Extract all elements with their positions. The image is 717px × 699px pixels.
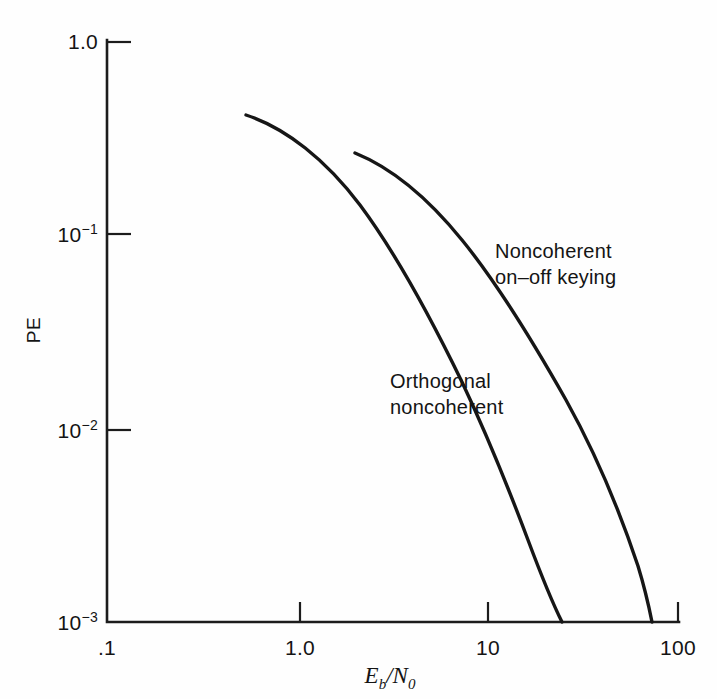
y-tick-label-1: 1.0 bbox=[68, 30, 98, 53]
figure-container: 1.0 10−1 10−2 10−3 .1 1.0 10 100 bbox=[0, 0, 717, 699]
x-tick-label-100: 100 bbox=[660, 636, 696, 659]
curve-orthogonal-noncoherent bbox=[246, 115, 562, 622]
y-axis-title: PE bbox=[23, 317, 44, 343]
y-tick-label-1e-3: 10−3 bbox=[57, 609, 98, 634]
x-tick-marks bbox=[300, 602, 678, 622]
curves-group bbox=[246, 115, 652, 622]
error-probability-chart: 1.0 10−1 10−2 10−3 .1 1.0 10 100 bbox=[0, 0, 717, 699]
x-tick-label-1: 1.0 bbox=[285, 636, 315, 659]
y-tick-label-1e-1: 10−1 bbox=[57, 221, 98, 246]
x-axis-title: Eb/N0 bbox=[364, 663, 416, 692]
axis-lines bbox=[107, 40, 679, 622]
annotation-orthogonal-noncoherent: Orthogonal noncoherent bbox=[390, 370, 504, 418]
axes-group bbox=[107, 40, 679, 622]
x-tick-labels: .1 1.0 10 100 bbox=[98, 636, 696, 659]
x-tick-label-10: 10 bbox=[476, 636, 500, 659]
annotation-noncoherent-on-off-keying: Noncoherent on–off keying bbox=[495, 240, 618, 288]
curve-annotations: Noncoherent on–off keying Orthogonal non… bbox=[390, 240, 618, 418]
x-tick-label-point1: .1 bbox=[98, 636, 116, 659]
y-tick-label-1e-2: 10−2 bbox=[57, 417, 98, 442]
y-tick-marks bbox=[107, 42, 131, 430]
y-tick-labels: 1.0 10−1 10−2 10−3 bbox=[57, 30, 98, 634]
